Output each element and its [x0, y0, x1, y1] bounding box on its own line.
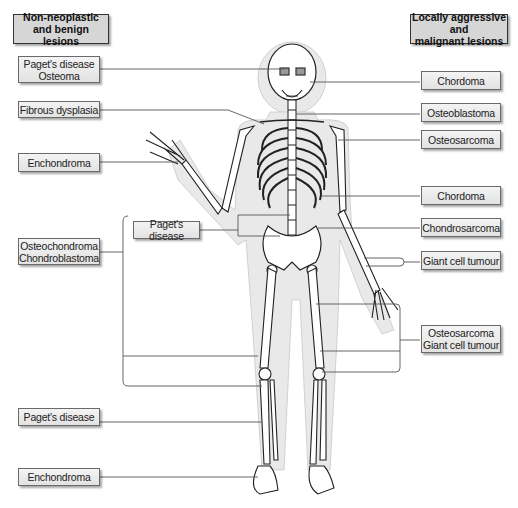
label-text: Chordoma — [437, 190, 484, 202]
label-osteoblastoma: Osteoblastoma — [421, 103, 501, 122]
label-pagets-osteoma-skull: Paget's disease Osteoma — [18, 56, 100, 83]
label-text: Paget's disease — [24, 411, 95, 423]
header-line: Locally aggressive and — [411, 11, 507, 35]
label-text: Chondroblastoma — [19, 252, 99, 264]
label-pagets-tibia: Paget's disease — [18, 408, 100, 426]
label-enchondroma-hand: Enchondroma — [18, 153, 100, 172]
label-osteochondroma-chondroblastoma: Osteochondroma Chondroblastoma — [18, 238, 100, 265]
header-line: Non-neoplastic — [23, 11, 99, 23]
label-text: Osteoma — [38, 70, 79, 82]
label-fibrous-dysplasia: Fibrous dysplasia — [18, 101, 100, 118]
label-text: Osteoblastoma — [427, 107, 495, 119]
label-text: Giant cell tumour — [423, 339, 499, 351]
label-text: Enchondroma — [27, 157, 90, 169]
label-text: Osteochondroma — [20, 240, 98, 252]
header-line: and benign lesions — [14, 23, 108, 47]
label-text: Fibrous dysplasia — [20, 104, 98, 116]
label-chondrosarcoma: Chondrosarcoma — [421, 218, 501, 237]
label-text: Chordoma — [437, 75, 484, 87]
skeleton-lesion-diagram: Non-neoplastic and benign lesions Locall… — [0, 0, 518, 508]
label-osteosarcoma-humerus: Osteosarcoma — [421, 130, 501, 149]
label-text: Osteosarcoma — [428, 134, 494, 146]
header-non-neoplastic-benign: Non-neoplastic and benign lesions — [13, 14, 109, 44]
label-pagets-pelvis: Paget's disease — [133, 221, 200, 239]
label-text: Paget's disease — [134, 218, 199, 242]
label-text: Giant cell tumour — [423, 255, 499, 267]
label-text: Chondrosarcoma — [422, 222, 500, 234]
skull — [268, 44, 316, 100]
label-enchondroma-foot: Enchondroma — [18, 468, 100, 486]
label-giant-cell-tumour-radius: Giant cell tumour — [421, 251, 501, 270]
label-chordoma-spine: Chordoma — [421, 186, 501, 205]
label-chordoma-skull: Chordoma — [421, 71, 501, 90]
label-text: Osteosarcoma — [428, 327, 494, 339]
label-text: Enchondroma — [27, 471, 90, 483]
label-text: Paget's disease — [24, 58, 95, 70]
header-aggressive-malignant: Locally aggressive and malignant lesions — [410, 14, 508, 44]
header-line: malignant lesions — [415, 35, 504, 47]
label-osteosarcoma-giant-cell-knee: Osteosarcoma Giant cell tumour — [421, 325, 501, 353]
spine — [288, 100, 296, 250]
